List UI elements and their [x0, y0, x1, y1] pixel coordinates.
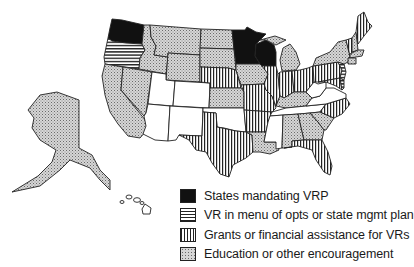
legend-label: VR in menu of opts or state mgmt plan: [204, 208, 414, 222]
state-sd: [200, 48, 236, 70]
state-az: [143, 104, 170, 141]
state-wy: [166, 53, 200, 82]
state-wa: [108, 19, 144, 44]
state-hi: [120, 195, 151, 214]
legend-item-mandating: States mandating VRP: [180, 186, 414, 206]
swatch-vertical-stripes-icon: [180, 228, 196, 242]
legend-label: Education or other encouragement: [204, 247, 393, 261]
legend: States mandating VRP VR in menu of opts …: [180, 186, 414, 264]
state-nd: [200, 29, 234, 49]
swatch-stipple-icon: [180, 247, 196, 261]
state-me: [356, 12, 372, 44]
swatch-horizontal-stripes-icon: [180, 208, 196, 222]
legend-item-grants: Grants or financial assistance for VRs: [180, 225, 414, 245]
state-co: [173, 81, 210, 108]
legend-label: Grants or financial assistance for VRs: [204, 228, 409, 242]
legend-item-menu: VR in menu of opts or state mgmt plan: [180, 206, 414, 226]
state-ct: [348, 58, 356, 64]
state-ks: [209, 88, 244, 108]
legend-label: States mandating VRP: [204, 189, 328, 203]
legend-item-education: Education or other encouragement: [180, 245, 414, 265]
state-mt: [150, 25, 201, 57]
state-ak: [12, 92, 110, 192]
state-ny: [313, 40, 350, 66]
swatch-solid-icon: [180, 189, 196, 203]
